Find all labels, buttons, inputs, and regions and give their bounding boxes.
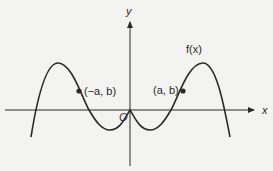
- function-label: f(x): [186, 43, 202, 55]
- origin-label: O: [119, 111, 128, 123]
- function-graph: y x O f(x) (−a, b) (a, b): [0, 0, 273, 171]
- point-a-b-marker: [180, 88, 185, 93]
- point-a-b-label: (a, b): [153, 84, 179, 96]
- point-neg-a-b-marker: [76, 88, 81, 93]
- point-neg-a-b-label: (−a, b): [84, 85, 116, 97]
- y-axis-label: y: [125, 5, 133, 17]
- x-axis-label: x: [261, 104, 268, 116]
